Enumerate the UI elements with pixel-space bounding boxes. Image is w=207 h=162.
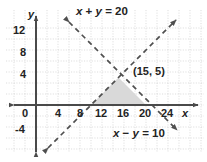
eq-sum-var-y: y	[96, 5, 102, 17]
eq-sum-value: 20	[115, 5, 128, 17]
y-tick-12: 12	[13, 25, 25, 36]
x-tick-20: 20	[139, 108, 151, 119]
y-tick-4: 4	[20, 69, 26, 80]
coordinate-plane-figure: 12 8 4 0 -4 4 8 12 16 20 24 y x x + y = …	[0, 0, 207, 162]
x-tick-8: 8	[77, 108, 83, 119]
y-tick-8: 8	[20, 47, 26, 58]
equation-label-difference: x − y = 10	[113, 128, 165, 140]
x-axis-label: x	[182, 108, 188, 119]
grid-vertical	[14, 10, 201, 152]
x-tick-12: 12	[95, 108, 107, 119]
y-axis-label: y	[28, 9, 34, 20]
eq-diff-operator: −	[123, 127, 130, 139]
eq-diff-value: 10	[152, 127, 165, 139]
equation-label-sum: x + y = 20	[76, 6, 128, 18]
graph-canvas	[0, 0, 207, 162]
x-tick-4: 4	[55, 108, 61, 119]
eq-diff-var-y: y	[133, 127, 139, 139]
eq-sum-operator: +	[86, 5, 93, 17]
y-tick-0: 0	[22, 108, 28, 119]
y-tick-neg4: -4	[15, 124, 25, 135]
eq-sum-var-x: x	[76, 5, 82, 17]
x-tick-24: 24	[161, 108, 173, 119]
eq-diff-var-x: x	[113, 127, 119, 139]
eq-diff-equals: =	[142, 127, 149, 139]
shaded-solution-region	[91, 78, 146, 106]
intersection-point-label: (15, 5)	[133, 66, 165, 77]
x-tick-16: 16	[117, 108, 129, 119]
eq-sum-equals: =	[105, 5, 112, 17]
